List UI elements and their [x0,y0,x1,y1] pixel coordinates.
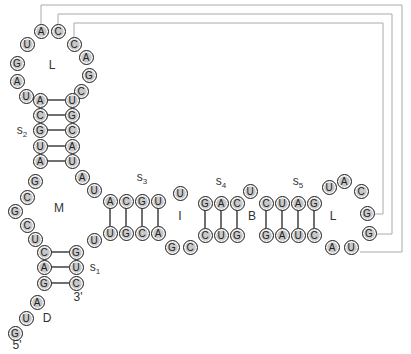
nucleotide-a: A [65,139,80,154]
nucleotide-g: G [37,276,52,291]
nucleotide-c: C [230,196,245,211]
nucleotide-c: C [33,108,48,123]
nucleotide-g: G [8,204,23,219]
stem-3-label: s3 [137,170,147,186]
nucleotide-g: G [198,196,213,211]
nucleotide-c: C [37,245,52,260]
nucleotide-a: A [337,174,352,189]
nucleotide-u: U [19,311,34,326]
nucleotide-c: C [20,190,35,205]
nucleotide-a: A [291,196,306,211]
nucleotide-g: G [360,206,375,221]
nucleotide-u: U [19,89,34,104]
nucleotide-u: U [33,139,48,154]
nucleotide-g: G [33,123,48,138]
nucleotide-c: C [69,276,84,291]
internal-loop-label: I [178,209,181,223]
nucleotide-a: A [33,154,48,169]
nucleotide-g: G [28,174,43,189]
nucleotide-a: A [214,196,229,211]
nucleotide-c: C [20,218,35,233]
nucleotide-c: C [354,184,369,199]
nucleotide-g: G [307,196,322,211]
bulge-label: B [248,209,256,223]
nucleotide-a: A [151,226,166,241]
stem-4-label: s4 [216,174,226,190]
nucleotide-u: U [214,228,229,243]
nucleotide-a: A [37,260,52,275]
nucleotide-a: A [30,295,45,310]
nucleotide-a: A [79,50,94,65]
nucleotide-g: G [230,228,245,243]
loop-top-label: L [49,58,56,72]
nucleotide-g: G [135,194,150,209]
nucleotide-u: U [151,194,166,209]
nucleotide-u: U [291,228,306,243]
stem-5-label: s5 [293,174,303,190]
nucleotide-u: U [28,232,43,247]
nucleotide-g: G [165,240,180,255]
five-prime-label: 5' [13,338,22,352]
nucleotide-u: U [20,37,35,52]
nucleotide-c: C [307,228,322,243]
nucleotide-u: U [103,226,118,241]
nucleotide-a: A [33,93,48,108]
dangling-end-label: D [43,311,52,325]
nucleotide-g: G [65,108,80,123]
nucleotide-c: C [67,37,82,52]
nucleotide-c: C [51,24,66,39]
nucleotide-a: A [275,228,290,243]
nucleotide-a: A [325,240,340,255]
nucleotide-c: C [183,240,198,255]
nucleotide-g: G [362,226,377,241]
nucleotide-c: C [259,196,274,211]
rna-structure-diagram: GUAGACUCGCGAUGCAUAGUACCAGCUGCAUAUACGUUGA… [0,0,411,354]
nucleotide-u: U [69,260,84,275]
three-prime-label: 3' [74,290,83,304]
nucleotide-u: U [65,154,80,169]
nucleotide-u: U [65,93,80,108]
nucleotide-c: C [65,123,80,138]
nucleotide-c: C [135,226,150,241]
nucleotide-g: G [259,228,274,243]
nucleotide-u: U [275,196,290,211]
nucleotide-g: G [69,245,84,260]
nucleotide-u: U [173,186,188,201]
nucleotide-a: A [34,24,49,39]
nucleotide-u: U [87,183,102,198]
nucleotide-a: A [103,194,118,209]
multiloop-label: M [54,201,64,215]
nucleotide-u: U [322,180,337,195]
nucleotide-g: G [10,56,25,71]
nucleotide-a: A [75,170,90,185]
nucleotide-u: U [344,240,359,255]
stem-2-label: s2 [17,123,27,139]
nucleotide-u: U [243,184,258,199]
nucleotide-c: C [119,194,134,209]
nucleotide-a: A [10,74,25,89]
nucleotide-u: U [87,233,102,248]
nucleotide-g: G [82,68,97,83]
loop-right-label: L [330,209,337,223]
nucleotide-c: C [198,228,213,243]
stem-1-label: s1 [90,260,100,276]
nucleotide-g: G [119,226,134,241]
pseudoknot-connector [74,23,383,214]
